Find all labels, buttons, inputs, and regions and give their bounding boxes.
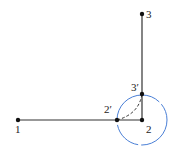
diagram-canvas: 1 2 3 2′ 3′ — [0, 0, 181, 157]
point-1 — [16, 118, 20, 122]
point-2-prime — [115, 118, 119, 122]
label-3: 3 — [146, 8, 152, 20]
label-1: 1 — [15, 123, 21, 135]
point-2 — [140, 118, 144, 122]
point-3 — [140, 12, 144, 16]
point-3-prime — [140, 92, 144, 96]
label-2-prime: 2′ — [104, 103, 112, 115]
label-2: 2 — [146, 123, 152, 135]
label-3-prime: 3′ — [131, 81, 139, 93]
